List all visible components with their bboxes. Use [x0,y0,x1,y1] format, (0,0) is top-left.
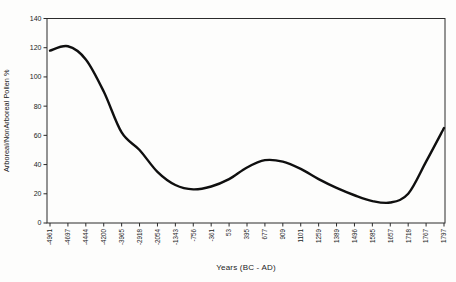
x-tick-label: -4444 [82,229,89,246]
x-tick-label: 1767 [422,229,429,244]
x-axis-title: Years (BC - AD) [216,263,276,272]
x-tick-label: -4200 [100,229,107,246]
x-tick-label: 1585 [369,229,376,244]
pollen-chart-figure: 020406080100120140-4961-4697-4444-4200-3… [0,0,456,282]
y-tick-label: 100 [30,73,42,80]
y-tick-label: 80 [34,103,42,110]
y-tick-label: 0 [38,219,42,226]
x-tick-label: -2054 [154,229,161,246]
y-tick-label: 20 [34,190,42,197]
x-tick-label: 1797 [440,229,447,244]
x-tick-label: -2918 [136,229,143,246]
y-tick-label: 40 [34,161,42,168]
x-tick-label: 1496 [351,229,358,244]
x-tick-label: 1101 [297,229,304,243]
x-tick-label: 1718 [405,229,412,244]
y-tick-label: 120 [30,44,42,51]
x-tick-label: -756 [190,229,197,242]
y-axis-title: Arboreal/NonArboreal Pollen % [2,69,11,172]
x-tick-label: -4961 [46,229,53,246]
plot-frame [47,19,445,224]
x-tick-label: 1657 [387,229,394,244]
x-tick-label: 1389 [333,229,340,244]
x-tick-label: 677 [261,229,268,240]
y-tick-label: 60 [34,132,42,139]
y-tick-label: 140 [30,15,42,22]
x-tick-label: 395 [243,229,250,240]
x-tick-label: -361 [208,229,215,242]
x-tick-label: 1259 [315,229,322,244]
x-tick-label: -4697 [64,229,71,246]
x-tick-label: 53 [225,229,232,237]
x-tick-label: 909 [279,229,286,240]
pollen-line-chart: 020406080100120140-4961-4697-4444-4200-3… [0,0,456,282]
x-tick-label: -3965 [118,229,125,246]
x-tick-label: -1343 [172,229,179,246]
